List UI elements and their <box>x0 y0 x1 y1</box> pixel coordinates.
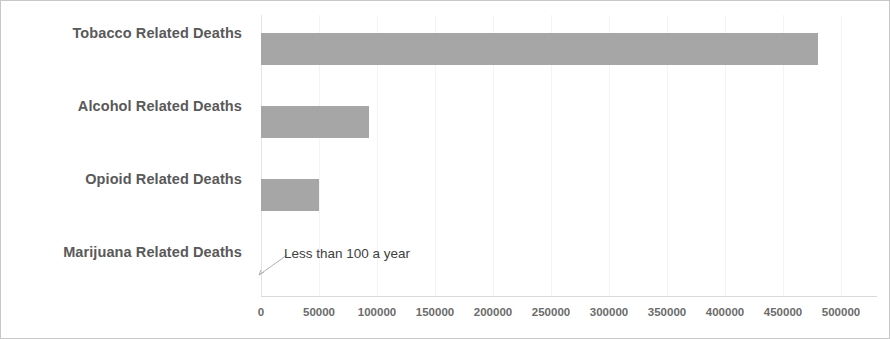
bar-opioid <box>261 179 319 211</box>
category-label-marijuana: Marijuana Related Deaths <box>0 244 242 260</box>
category-label-alcohol: Alcohol Related Deaths <box>0 98 242 114</box>
bar-row: Marijuana Related Deaths <box>1 232 889 302</box>
x-axis-line <box>261 296 877 297</box>
x-tick-label-500000: 500000 <box>801 306 881 318</box>
bar-tobacco <box>261 33 818 65</box>
bar-chart-figure: Tobacco Related Deaths Alcohol Related D… <box>0 0 890 339</box>
bar-row: Tobacco Related Deaths <box>1 13 889 83</box>
category-label-opioid: Opioid Related Deaths <box>0 171 242 187</box>
bar-row: Alcohol Related Deaths <box>1 86 889 156</box>
annotation-less-than-100: Less than 100 a year <box>284 246 410 261</box>
category-label-tobacco: Tobacco Related Deaths <box>0 25 242 41</box>
bar-row: Opioid Related Deaths <box>1 159 889 229</box>
bar-alcohol <box>261 106 369 138</box>
